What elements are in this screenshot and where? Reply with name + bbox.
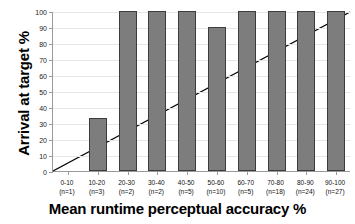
- bar: [178, 11, 196, 171]
- y-tick-label: 40: [39, 105, 47, 112]
- y-tick-mark: [49, 124, 53, 125]
- x-axis-title: Mean runtime perceptual accuracy %: [0, 200, 355, 217]
- bar: [119, 11, 137, 171]
- y-tick-label: 70: [39, 57, 47, 64]
- y-tick-label: 30: [39, 121, 47, 128]
- x-tick-label: 90-100(n=27): [315, 178, 355, 196]
- y-tick-mark: [49, 92, 53, 93]
- y-tick-label: 50: [39, 89, 47, 96]
- bar: [297, 11, 315, 171]
- bar-chart: Arrival at target % 01020304050607080901…: [0, 0, 355, 224]
- plot-area: 0102030405060708090100: [52, 12, 350, 172]
- bar: [327, 11, 345, 171]
- x-tick-mark: [187, 171, 188, 175]
- bar: [208, 27, 226, 171]
- y-tick-label: 90: [39, 25, 47, 32]
- y-tick-mark: [49, 76, 53, 77]
- x-tick-mark: [68, 171, 69, 175]
- y-tick-mark: [49, 172, 53, 173]
- bar: [148, 11, 166, 171]
- x-tick-mark: [336, 171, 337, 175]
- bar: [89, 118, 107, 171]
- y-tick-mark: [49, 12, 53, 13]
- x-tick-mark: [277, 171, 278, 175]
- y-tick-mark: [49, 60, 53, 61]
- y-tick-label: 20: [39, 137, 47, 144]
- x-tick-mark: [98, 171, 99, 175]
- bar: [268, 11, 286, 171]
- y-tick-mark: [49, 28, 53, 29]
- x-tick-mark: [247, 171, 248, 175]
- y-tick-label: 10: [39, 153, 47, 160]
- x-tick-label-count: (n=27): [315, 187, 355, 196]
- y-tick-mark: [49, 44, 53, 45]
- y-tick-mark: [49, 108, 53, 109]
- y-tick-mark: [49, 140, 53, 141]
- y-tick-mark: [49, 156, 53, 157]
- y-tick-label: 100: [35, 9, 47, 16]
- x-tick-mark: [157, 171, 158, 175]
- y-tick-label: 0: [43, 169, 47, 176]
- y-tick-label: 60: [39, 73, 47, 80]
- y-axis-title: Arrival at target %: [15, 9, 32, 179]
- x-tick-mark: [306, 171, 307, 175]
- bar: [238, 11, 256, 171]
- x-tick-label-range: 90-100: [315, 178, 355, 187]
- y-tick-label: 80: [39, 41, 47, 48]
- x-tick-mark: [128, 171, 129, 175]
- x-tick-mark: [217, 171, 218, 175]
